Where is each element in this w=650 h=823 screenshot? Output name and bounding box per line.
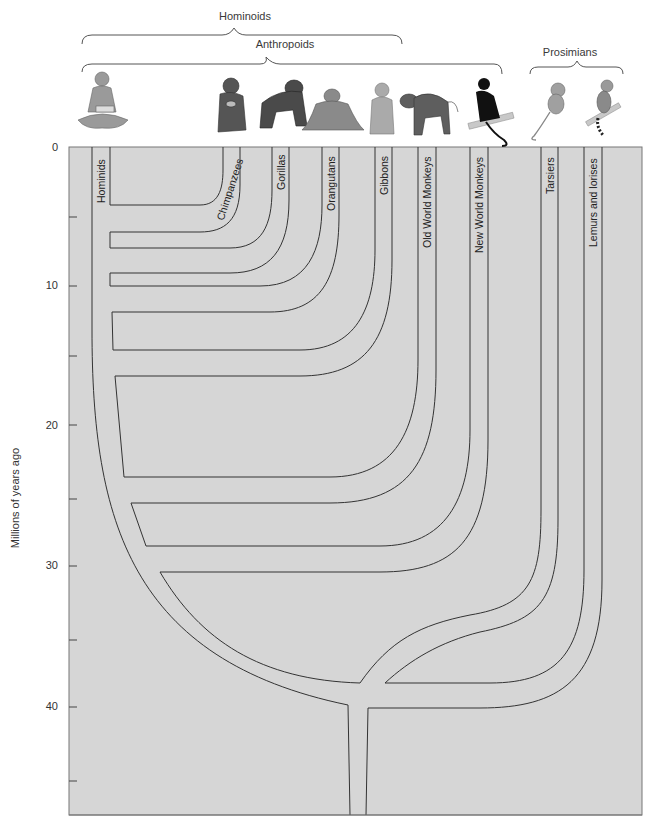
- label-tarsiers: Tarsiers: [544, 157, 556, 194]
- tarsier-icon: [532, 83, 565, 140]
- label-gibbons: Gibbons: [378, 156, 390, 195]
- label-new-world-monkeys: New World Monkeys: [473, 157, 485, 253]
- y-tick-30: 30: [28, 559, 58, 571]
- gorilla-icon: [260, 80, 307, 128]
- baboon-icon: [400, 94, 458, 135]
- lemur-icon: [586, 80, 621, 136]
- chimpanzee-icon: [218, 78, 246, 132]
- human-icon: [78, 72, 128, 128]
- plot-area: [69, 147, 642, 815]
- label-orangutans: Orangutans: [325, 156, 337, 211]
- animal-illustrations: [0, 0, 650, 150]
- label-lemurs-and-lorises: Lemurs and lorises: [587, 158, 599, 247]
- y-axis-title: Millions of years ago: [9, 443, 21, 553]
- y-tick-10: 10: [28, 279, 58, 291]
- orangutan-icon: [302, 89, 364, 130]
- label-hominids: Hominids: [95, 159, 107, 203]
- gibbon-icon: [370, 83, 394, 134]
- y-tick-20: 20: [28, 419, 58, 431]
- label-gorillas: Gorillas: [275, 154, 287, 190]
- label-old-world-monkeys: Old World Monkeys: [421, 157, 433, 248]
- y-tick-40: 40: [28, 700, 58, 712]
- spider-monkey-icon: [468, 78, 514, 146]
